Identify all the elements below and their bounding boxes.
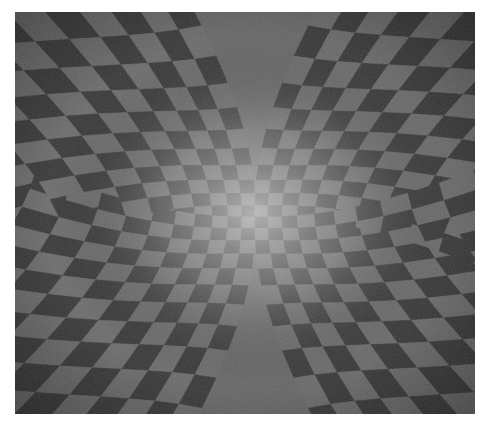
warped-checkerboard-artwork: Grayscale op-art painting of a warped ch…	[15, 12, 475, 414]
texture-grain	[15, 12, 475, 414]
artwork-canvas	[15, 12, 475, 414]
